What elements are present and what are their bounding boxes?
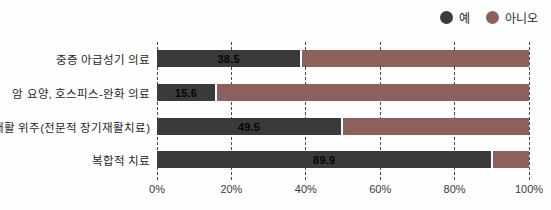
value-label: 89.9 <box>157 151 491 168</box>
legend-dot-yes-icon <box>440 11 453 24</box>
bar-segment-yes: 15.6 <box>157 84 215 101</box>
category-label: 재활 위주(전문적 장기재활치료) <box>0 118 150 135</box>
plot-area: 38.515.649.589.9 <box>157 42 529 180</box>
x-axis-tick-label: 40% <box>295 183 317 195</box>
value-label: 38.5 <box>157 50 300 67</box>
bar-row: 89.9 <box>157 151 529 168</box>
x-axis-tick-label: 60% <box>369 183 391 195</box>
bar-segment-yes: 89.9 <box>157 151 491 168</box>
category-label: 복합적 치료 <box>0 151 150 168</box>
x-axis-tick-label: 80% <box>444 183 466 195</box>
bar-segment-no <box>302 50 529 67</box>
bar-row: 15.6 <box>157 84 529 101</box>
bar-segment-yes: 38.5 <box>157 50 300 67</box>
legend-dot-no-icon <box>486 11 499 24</box>
bar-row: 38.5 <box>157 50 529 67</box>
category-label: 암 요양, 호스피스-완화 의료 <box>0 84 150 101</box>
x-axis-tick-label: 100% <box>515 183 543 195</box>
legend-item-yes: 예 <box>440 9 470 26</box>
bar-row: 49.5 <box>157 118 529 135</box>
legend-label-yes: 예 <box>459 9 470 26</box>
chart-legend: 예 아니오 <box>440 9 538 26</box>
x-axis-tick-label: 0% <box>149 183 165 195</box>
bar-segment-yes: 49.5 <box>157 118 341 135</box>
legend-label-no: 아니오 <box>505 9 538 26</box>
bar-segment-no <box>493 151 529 168</box>
value-label: 15.6 <box>157 84 215 101</box>
x-axis-tick-label: 20% <box>220 183 242 195</box>
bar-segment-no <box>217 84 529 101</box>
stacked-bar-chart: 예 아니오 38.515.649.589.9 0%20%40%60%80%100… <box>0 0 551 210</box>
bar-segment-no <box>343 118 529 135</box>
value-label: 49.5 <box>157 118 341 135</box>
category-label: 중증 아급성기 의료 <box>0 50 150 67</box>
x-axis: 0%20%40%60%80%100% <box>157 183 529 199</box>
legend-item-no: 아니오 <box>486 9 538 26</box>
